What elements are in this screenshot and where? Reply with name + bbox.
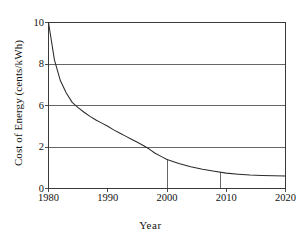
energy-cost-chart-figure: Cost of Energy (cents/kWh) 108620 198019… bbox=[0, 0, 301, 239]
data-curve bbox=[49, 23, 286, 177]
axis-frame bbox=[45, 23, 286, 193]
marker-drop-lines bbox=[167, 159, 220, 188]
gridlines bbox=[49, 23, 286, 148]
plot-area bbox=[0, 0, 301, 239]
